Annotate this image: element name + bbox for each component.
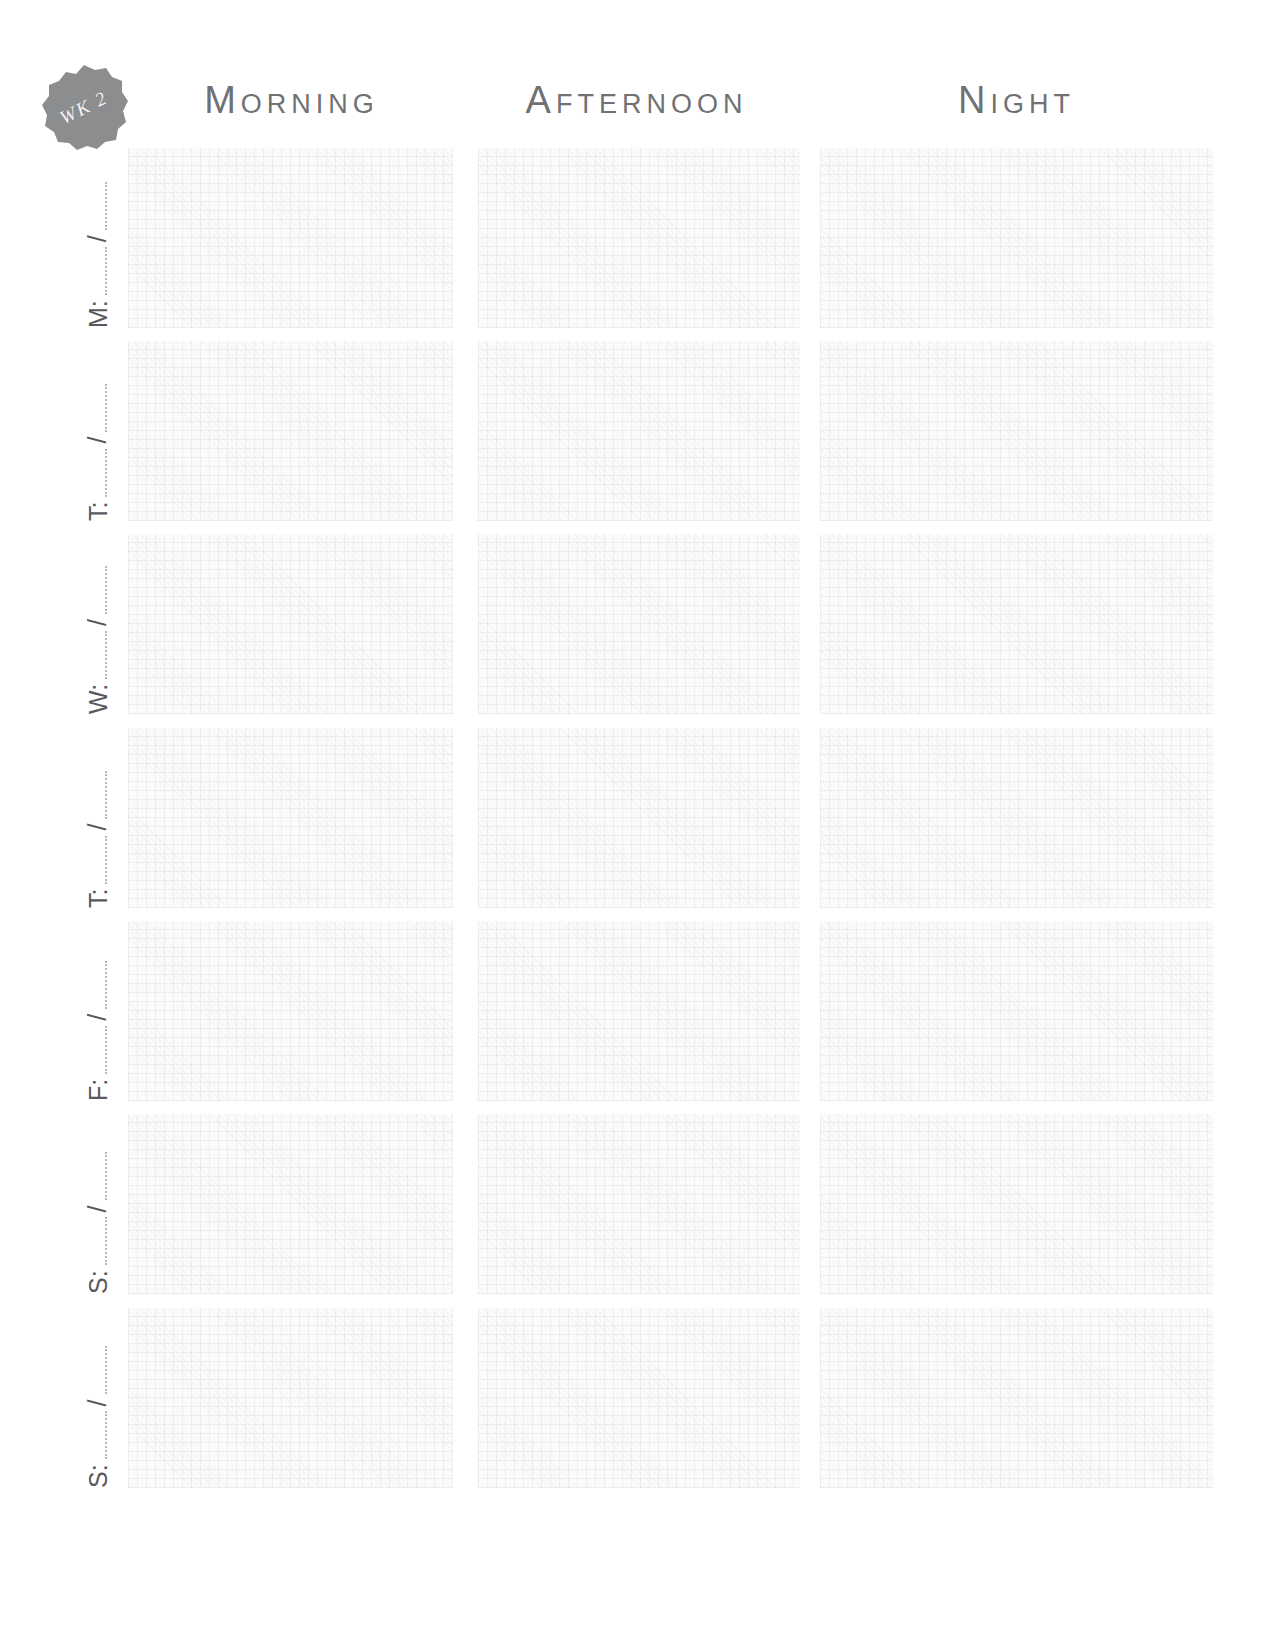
entry-cell-night[interactable] <box>820 534 1213 714</box>
date-fill-line-left[interactable] <box>104 247 107 295</box>
day-label-strip: T: / <box>73 341 123 521</box>
table-row: T: / <box>73 728 1213 908</box>
entry-cell-afternoon[interactable] <box>478 1308 800 1488</box>
table-row: M: / <box>73 148 1213 328</box>
week-badge: WK 2 <box>38 62 130 154</box>
entry-cell-morning[interactable] <box>128 534 453 714</box>
date-fill-line-right[interactable] <box>104 182 107 230</box>
planner-page: WK 2 Morning Afternoon Night M: / <box>0 0 1261 1652</box>
date-fill-line-right[interactable] <box>104 771 107 819</box>
entry-cell-morning[interactable] <box>128 728 453 908</box>
date-fill-line-left[interactable] <box>104 836 107 884</box>
entry-cell-afternoon[interactable] <box>478 534 800 714</box>
column-header-morning: Morning <box>128 74 455 130</box>
date-separator: / <box>85 437 110 444</box>
entry-cell-morning[interactable] <box>128 148 453 328</box>
column-header-night: Night <box>820 74 1213 130</box>
entry-cell-afternoon[interactable] <box>478 341 800 521</box>
entry-cell-morning[interactable] <box>128 341 453 521</box>
entry-cell-night[interactable] <box>820 1308 1213 1488</box>
date-separator: / <box>85 1399 110 1406</box>
day-letter: M: <box>86 300 111 328</box>
planner-grid: M: / T: / <box>73 148 1213 1502</box>
day-letter: S: <box>86 1464 111 1488</box>
table-row: W: / <box>73 534 1213 714</box>
date-fill-line-left[interactable] <box>104 449 107 497</box>
entry-cell-morning[interactable] <box>128 921 453 1101</box>
entry-cell-morning[interactable] <box>128 1114 453 1294</box>
entry-cell-night[interactable] <box>820 148 1213 328</box>
date-fill-line-left[interactable] <box>104 631 107 679</box>
day-letter: T: <box>86 502 111 521</box>
day-label-strip: F: / <box>73 921 123 1101</box>
day-letter: T: <box>86 889 111 908</box>
entry-cell-night[interactable] <box>820 921 1213 1101</box>
day-label-strip: S: / <box>73 1308 123 1488</box>
entry-cell-afternoon[interactable] <box>478 1114 800 1294</box>
date-fill-line-right[interactable] <box>104 1346 107 1394</box>
entry-cell-afternoon[interactable] <box>478 921 800 1101</box>
table-row: T: / <box>73 341 1213 521</box>
column-headers: Morning Afternoon Night <box>128 74 1213 130</box>
column-header-afternoon: Afternoon <box>478 74 795 130</box>
date-separator: / <box>85 619 110 626</box>
day-letter: S: <box>86 1270 111 1294</box>
date-fill-line-right[interactable] <box>104 961 107 1009</box>
day-letter: F: <box>86 1079 111 1101</box>
date-fill-line-left[interactable] <box>104 1026 107 1074</box>
date-separator: / <box>85 235 110 242</box>
day-label-strip: S: / <box>73 1114 123 1294</box>
day-label-strip: W: / <box>73 534 123 714</box>
entry-cell-afternoon[interactable] <box>478 728 800 908</box>
date-fill-line-left[interactable] <box>104 1411 107 1459</box>
day-letter: W: <box>86 684 111 714</box>
entry-cell-night[interactable] <box>820 341 1213 521</box>
table-row: S: / <box>73 1308 1213 1488</box>
date-fill-line-right[interactable] <box>104 566 107 614</box>
date-separator: / <box>85 1014 110 1021</box>
entry-cell-morning[interactable] <box>128 1308 453 1488</box>
date-fill-line-right[interactable] <box>104 1152 107 1200</box>
entry-cell-night[interactable] <box>820 1114 1213 1294</box>
table-row: S: / <box>73 1114 1213 1294</box>
date-separator: / <box>85 824 110 831</box>
day-label-strip: T: / <box>73 728 123 908</box>
entry-cell-afternoon[interactable] <box>478 148 800 328</box>
table-row: F: / <box>73 921 1213 1101</box>
date-fill-line-right[interactable] <box>104 384 107 432</box>
date-fill-line-left[interactable] <box>104 1217 107 1265</box>
day-label-strip: M: / <box>73 148 123 328</box>
entry-cell-night[interactable] <box>820 728 1213 908</box>
date-separator: / <box>85 1205 110 1212</box>
